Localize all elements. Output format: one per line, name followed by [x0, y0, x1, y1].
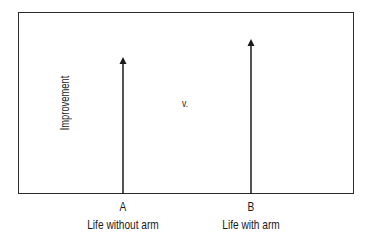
arrow-b: [248, 39, 255, 194]
option-a-letter: A: [119, 199, 128, 214]
option-b-description: Life with arm: [214, 217, 288, 232]
arrows-layer: [0, 0, 372, 243]
y-axis-label: Improvement: [58, 68, 72, 138]
option-b-letter: B: [247, 199, 256, 214]
versus-text: v.: [181, 97, 189, 109]
arrowhead-a-icon: [120, 57, 127, 64]
arrowhead-b-icon: [248, 39, 255, 46]
arrow-a: [120, 57, 127, 194]
option-a-description: Life without arm: [77, 217, 169, 232]
